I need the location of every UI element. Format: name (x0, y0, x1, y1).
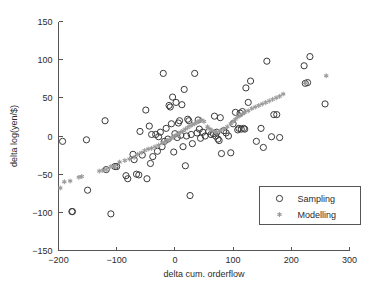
modelling-marker (150, 146, 153, 150)
sampling-marker (243, 85, 249, 91)
sampling-marker (253, 138, 259, 144)
y-tick-label: −150 (32, 246, 52, 256)
y-tick-label: −100 (32, 208, 52, 218)
modelling-marker (68, 179, 71, 183)
modelling-marker (260, 102, 263, 106)
sampling-marker (59, 138, 65, 144)
sampling-marker (168, 121, 174, 127)
sampling-marker (163, 125, 169, 131)
sampling-marker (176, 118, 182, 124)
sampling-marker (167, 104, 173, 110)
sampling-marker (301, 63, 307, 69)
modelling-marker (281, 92, 284, 96)
x-tick-label: 100 (226, 255, 241, 265)
x-tick-label: 200 (284, 255, 299, 265)
sampling-marker (187, 192, 193, 198)
sampling-marker (102, 118, 108, 124)
y-tick-label: −50 (37, 170, 52, 180)
modelling-marker (146, 147, 149, 151)
sampling-marker (186, 118, 192, 124)
sampling-marker (268, 134, 274, 140)
modelling-marker (63, 180, 66, 184)
legend-label-sampling: Sampling (298, 194, 336, 204)
modelling-marker (324, 74, 327, 78)
sampling-marker (258, 125, 264, 131)
modelling-marker (267, 99, 270, 103)
sampling-marker (260, 144, 266, 150)
sampling-marker (83, 137, 89, 143)
modelling-marker (264, 100, 267, 104)
modelling-marker (257, 103, 260, 107)
sampling-marker (322, 101, 328, 107)
x-tick-label: 300 (342, 255, 357, 265)
modelling-marker (271, 97, 274, 101)
sampling-marker (179, 102, 185, 108)
sampling-marker (146, 123, 152, 129)
y-tick-label: 50 (42, 93, 52, 103)
sampling-marker (218, 150, 224, 156)
sampling-marker (147, 160, 153, 166)
modelling-marker (278, 94, 281, 98)
modelling-marker (123, 158, 126, 162)
modelling-marker (274, 96, 277, 100)
y-axis-title: delta log(yen/$) (9, 105, 19, 167)
sampling-marker (217, 115, 223, 121)
y-tick-label: 150 (37, 17, 52, 27)
legend[interactable]: SamplingModelling (260, 187, 361, 225)
sampling-marker (192, 70, 198, 76)
modelling-marker (98, 169, 101, 173)
sampling-marker (173, 99, 179, 105)
sampling-marker (181, 86, 187, 92)
x-tick-label: −200 (48, 255, 68, 265)
x-tick-label: −100 (107, 255, 127, 265)
sampling-marker (211, 113, 217, 119)
sampling-marker (189, 141, 195, 147)
axis-labels-layer: −200−1000100200300−150−100−50050100150de… (9, 17, 357, 279)
modelling-marker (59, 186, 62, 190)
sampling-marker (216, 137, 222, 143)
x-axis-title: delta cum. orderflow (163, 269, 245, 279)
sampling-marker (264, 58, 270, 64)
sampling-marker (108, 211, 114, 217)
sampling-marker (228, 150, 234, 156)
sampling-marker (143, 107, 149, 113)
sampling-marker (180, 144, 186, 150)
sampling-marker (277, 134, 283, 140)
y-tick-label: 100 (37, 55, 52, 65)
scatter-plot-figure: −200−1000100200300−150−100−50050100150de… (0, 0, 376, 296)
modelling-marker (118, 160, 121, 164)
x-tick-label: 0 (172, 255, 177, 265)
sampling-marker (307, 54, 313, 60)
modelling-marker (253, 105, 256, 109)
sampling-marker (160, 70, 166, 76)
modelling-marker (246, 109, 249, 113)
sampling-marker (144, 176, 150, 182)
y-tick-label: 0 (47, 132, 52, 142)
sampling-marker (247, 78, 253, 84)
sampling-marker (171, 149, 177, 155)
plot-canvas: −200−1000100200300−150−100−50050100150de… (0, 0, 376, 296)
sampling-marker (137, 128, 143, 134)
sampling-marker (182, 163, 188, 169)
legend-label-modelling: Modelling (298, 210, 337, 220)
modelling-marker (104, 168, 107, 172)
sampling-marker (85, 187, 91, 193)
modelling-marker (250, 107, 253, 111)
sampling-marker (245, 99, 251, 105)
sampling-marker (150, 154, 156, 160)
